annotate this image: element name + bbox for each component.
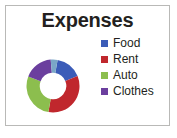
legend-item-rent: Rent — [101, 51, 169, 67]
legend-swatch-rent — [101, 56, 108, 63]
chart-card: Expenses FoodRentAutoClothes — [0, 0, 177, 138]
page-title: Expenses — [6, 8, 169, 32]
legend-swatch-auto — [101, 72, 108, 79]
legend-label: Auto — [113, 67, 138, 83]
donut-slice-auto — [27, 77, 51, 113]
donut-slice-rent — [48, 76, 79, 112]
legend-swatch-clothes — [101, 88, 108, 95]
donut-slice-group — [27, 60, 80, 113]
chart-legend: FoodRentAutoClothes — [101, 35, 169, 99]
legend-label: Clothes — [113, 83, 154, 99]
legend-item-auto: Auto — [101, 67, 169, 83]
legend-item-clothes: Clothes — [101, 83, 169, 99]
donut-chart-svg — [26, 59, 80, 113]
donut-chart — [26, 59, 80, 113]
legend-swatch-food — [101, 40, 108, 47]
legend-item-food: Food — [101, 35, 169, 51]
legend-label: Food — [113, 35, 140, 51]
legend-label: Rent — [113, 51, 138, 67]
